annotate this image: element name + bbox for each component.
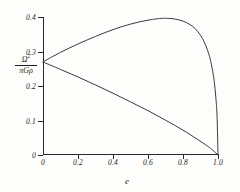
y-axis-title-numerator: Ω2: [11, 56, 41, 65]
y-tick-0: [38, 155, 43, 156]
y-tick-label-0: 0: [32, 151, 36, 160]
y-tick-label-0.1: 0.1: [26, 116, 36, 125]
x-tick-label-0.2: 0.2: [73, 158, 83, 167]
x-tick-label-0.6: 0.6: [143, 158, 153, 167]
curve-lower-branch: [43, 62, 218, 155]
y-tick-label-0.2: 0.2: [26, 82, 36, 91]
chart-figure: Ω2 πGρ 00.10.20.30.4 00.20.40.60.81.0 e: [0, 0, 240, 192]
y-tick-label-0.4: 0.4: [26, 13, 36, 22]
y-axis-title-denominator: πGρ: [11, 67, 41, 76]
curve-upper-branch: [43, 18, 218, 155]
x-tick-label-0.8: 0.8: [178, 158, 188, 167]
x-tick-label-0: 0: [41, 158, 45, 167]
x-tick-label-1.0: 1.0: [213, 158, 223, 167]
y-axis-title: Ω2 πGρ: [11, 56, 41, 76]
curve-group: [43, 17, 218, 155]
plot-area: 00.10.20.30.4 00.20.40.60.81.0: [43, 17, 218, 155]
y-tick-label-0.3: 0.3: [26, 47, 36, 56]
x-axis-title: e: [0, 176, 240, 186]
x-tick-label-0.4: 0.4: [108, 158, 118, 167]
